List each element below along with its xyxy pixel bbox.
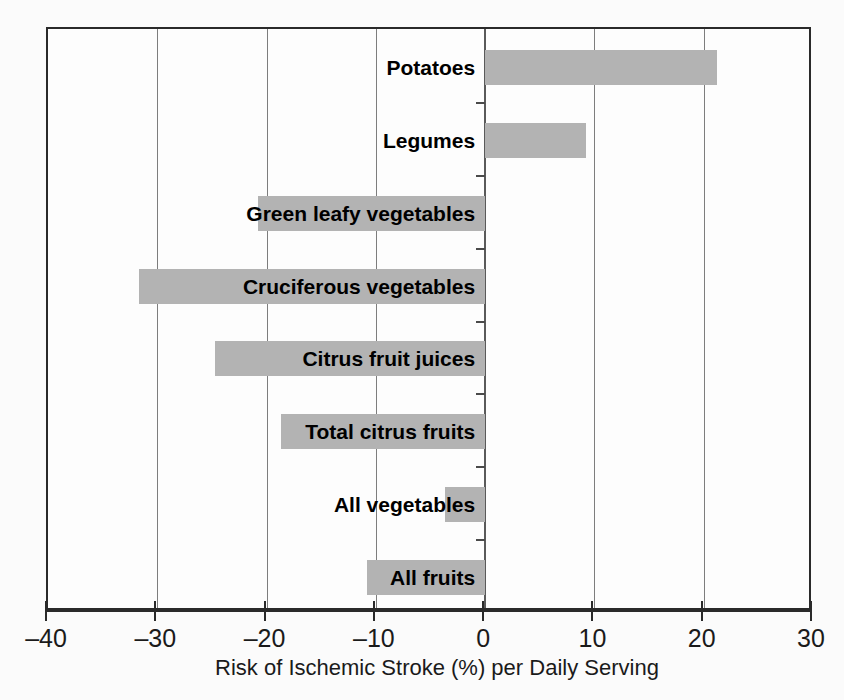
x-tick-label: 30 — [797, 624, 825, 653]
x-tick-inner — [591, 601, 593, 610]
x-tick — [154, 610, 156, 621]
y-tick — [476, 321, 485, 323]
bar-category-label: Total citrus fruits — [305, 414, 475, 449]
x-axis: –40–30–20–100102030 — [46, 610, 811, 612]
bar — [485, 123, 586, 158]
bar-category-label: Green leafy vegetables — [246, 196, 475, 231]
bar-category-label: Citrus fruit juices — [302, 341, 475, 376]
y-tick — [476, 466, 485, 468]
x-tick-label: 10 — [579, 624, 607, 653]
y-tick — [476, 175, 485, 177]
y-tick — [476, 248, 485, 250]
x-tick-inner — [701, 601, 703, 610]
bar-category-label: Cruciferous vegetables — [243, 269, 475, 304]
gridline — [704, 29, 705, 608]
x-tick-inner — [373, 601, 375, 610]
x-tick — [264, 610, 266, 621]
x-axis-title-text: Risk of Ischemic Stroke (%) per Daily Se… — [215, 655, 659, 681]
x-tick — [482, 610, 484, 621]
x-tick — [591, 610, 593, 621]
y-tick — [476, 393, 485, 395]
bar — [485, 50, 717, 85]
gridline — [594, 29, 595, 608]
x-tick-inner — [264, 601, 266, 610]
x-tick-label: –20 — [244, 624, 286, 653]
bar-category-label: All fruits — [390, 560, 475, 595]
bar-category-label: Legumes — [383, 123, 475, 158]
x-tick-inner — [154, 601, 156, 610]
gridline — [267, 29, 268, 608]
bar-category-label: Potatoes — [386, 50, 475, 85]
gridline — [157, 29, 158, 608]
x-tick-label: –30 — [134, 624, 176, 653]
x-tick-label: –40 — [25, 624, 67, 653]
x-tick — [45, 610, 47, 621]
bar-category-label: All vegetables — [334, 487, 475, 522]
x-tick-label: 20 — [688, 624, 716, 653]
x-tick-label: 0 — [476, 624, 490, 653]
y-tick — [476, 102, 485, 104]
x-tick-inner — [810, 601, 812, 610]
chart-figure: PotatoesLegumesGreen leafy vegetablesCru… — [0, 0, 844, 700]
x-tick — [810, 610, 812, 621]
x-tick — [373, 610, 375, 621]
x-tick-inner — [482, 601, 484, 610]
x-axis-title: Risk of Ischemic Stroke (%) per Daily Se… — [0, 655, 844, 681]
y-tick — [476, 539, 485, 541]
x-tick-label: –10 — [353, 624, 395, 653]
x-tick-inner — [45, 601, 47, 610]
x-tick — [701, 610, 703, 621]
plot-area: PotatoesLegumesGreen leafy vegetablesCru… — [46, 27, 811, 610]
